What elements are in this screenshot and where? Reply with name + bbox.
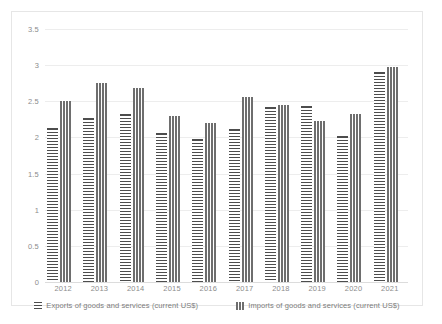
bar-group — [299, 29, 335, 282]
x-axis-tick-label: 2012 — [45, 284, 81, 293]
bar-exports — [337, 136, 348, 282]
bar-exports — [374, 72, 385, 282]
bar-exports — [47, 128, 58, 282]
bar-exports — [229, 129, 240, 282]
chart-container: 00.511.522.533.5 20122013201420152016201… — [11, 11, 423, 306]
x-axis-tick-label: 2013 — [81, 284, 117, 293]
bar-imports — [242, 97, 253, 282]
x-axis-tick-label: 2016 — [190, 284, 226, 293]
x-axis-tick-label: 2018 — [263, 284, 299, 293]
y-axis-tick-label: 0.5 — [28, 241, 39, 250]
bar-group — [227, 29, 263, 282]
bar-group — [45, 29, 81, 282]
legend-label: Imports of goods and services (current U… — [248, 301, 399, 310]
bar-group — [81, 29, 117, 282]
bar-exports — [120, 114, 131, 282]
bar-exports — [156, 133, 167, 282]
gridline — [45, 282, 408, 283]
legend-item-imports[interactable]: Imports of goods and services (current U… — [236, 301, 399, 310]
bar-exports — [265, 107, 276, 282]
x-axis-tick-label: 2021 — [372, 284, 408, 293]
bar-imports — [314, 121, 325, 282]
bar-imports — [96, 83, 107, 282]
y-axis-tick-label: 2 — [35, 133, 39, 142]
x-axis-tick-label: 2020 — [335, 284, 371, 293]
x-axis-tick-label: 2014 — [118, 284, 154, 293]
legend-swatch-exports-icon — [34, 302, 42, 310]
bar-group — [335, 29, 371, 282]
bar-exports — [83, 118, 94, 282]
plot-area: 00.511.522.533.5 — [45, 29, 408, 282]
x-axis-tick-label: 2019 — [299, 284, 335, 293]
bar-imports — [387, 67, 398, 282]
bar-imports — [60, 101, 71, 282]
bars-layer — [45, 29, 408, 282]
y-axis-tick-label: 3 — [35, 61, 39, 70]
bar-imports — [169, 116, 180, 282]
bar-imports — [205, 123, 216, 282]
bar-group — [118, 29, 154, 282]
bar-group — [154, 29, 190, 282]
y-axis-tick-label: 1 — [35, 205, 39, 214]
x-axis-tick-label: 2017 — [227, 284, 263, 293]
bar-exports — [192, 139, 203, 282]
bar-imports — [133, 88, 144, 282]
bar-group — [263, 29, 299, 282]
y-axis-tick-label: 1.5 — [28, 169, 39, 178]
legend-item-exports[interactable]: Exports of goods and services (current U… — [34, 301, 198, 310]
legend-label: Exports of goods and services (current U… — [46, 301, 198, 310]
x-axis-tick-labels: 2012201320142015201620172018201920202021 — [45, 284, 408, 298]
y-axis-tick-label: 3.5 — [28, 25, 39, 34]
bar-imports — [350, 114, 361, 282]
bar-exports — [301, 106, 312, 282]
legend-swatch-imports-icon — [236, 302, 244, 310]
bar-imports — [278, 105, 289, 282]
bar-group — [190, 29, 226, 282]
bar-group — [372, 29, 408, 282]
y-axis-tick-label: 2.5 — [28, 97, 39, 106]
chart-legend: Exports of goods and services (current U… — [12, 301, 422, 310]
x-axis-tick-label: 2015 — [154, 284, 190, 293]
y-axis-tick-label: 0 — [35, 278, 39, 287]
